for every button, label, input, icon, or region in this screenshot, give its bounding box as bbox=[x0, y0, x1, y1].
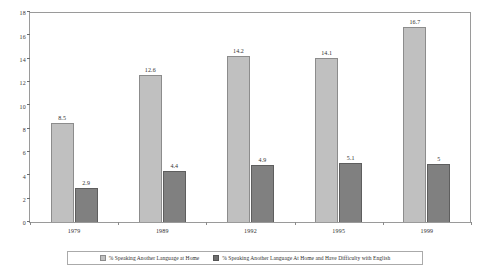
bar-value-label: 8.5 bbox=[51, 115, 74, 121]
y-axis-tick: 10 bbox=[0, 100, 30, 110]
x-axis-label: 1995 bbox=[332, 228, 345, 234]
bar-value-label: 4.4 bbox=[163, 163, 186, 169]
y-axis-tick-label: 12 bbox=[20, 78, 30, 88]
y-axis: 024681012141618 bbox=[0, 12, 30, 223]
x-axis-tick-mark bbox=[471, 222, 472, 225]
bar-series-2 bbox=[163, 171, 186, 222]
y-axis-tick-label: 2 bbox=[23, 195, 30, 205]
bar-value-label: 2.9 bbox=[75, 180, 98, 186]
y-axis-tick: 14 bbox=[0, 54, 30, 64]
legend-swatch-icon bbox=[100, 255, 106, 261]
bar-series-1 bbox=[315, 58, 338, 223]
bar-series-2 bbox=[251, 165, 274, 222]
bar-group: 8.52.9 bbox=[30, 12, 118, 222]
bar-value-label: 4.9 bbox=[251, 157, 274, 163]
bars-layer: 8.52.912.64.414.24.914.15.116.75 bbox=[30, 12, 471, 222]
y-axis-tick: 6 bbox=[0, 147, 30, 157]
bar-value-label: 16.7 bbox=[403, 19, 426, 25]
y-axis-tick-label: 4 bbox=[23, 172, 30, 182]
y-axis-tick-label: 14 bbox=[20, 55, 30, 65]
bar-group: 16.75 bbox=[383, 12, 471, 222]
bar-chart: 024681012141618 8.52.912.64.414.24.914.1… bbox=[0, 0, 482, 272]
y-axis-tick: 0 bbox=[0, 217, 30, 227]
y-axis-tick: 18 bbox=[0, 7, 30, 17]
x-axis-label: 1979 bbox=[68, 228, 81, 234]
x-axis-label: 1999 bbox=[420, 228, 433, 234]
bar-value-label: 14.2 bbox=[227, 48, 250, 54]
bar-series-2 bbox=[427, 164, 450, 222]
legend-label: % Speaking Another Language at Home bbox=[109, 255, 200, 261]
x-axis-tick-mark bbox=[118, 222, 119, 225]
bar-series-1 bbox=[227, 56, 250, 222]
bar-series-2 bbox=[339, 163, 362, 223]
y-axis-tick: 8 bbox=[0, 124, 30, 134]
y-axis-tick-label: 0 bbox=[23, 218, 30, 228]
y-axis-tick-label: 16 bbox=[20, 32, 30, 42]
x-axis-tick-mark bbox=[383, 222, 384, 225]
bar-series-1 bbox=[139, 75, 162, 222]
bar-value-label: 5.1 bbox=[339, 155, 362, 161]
x-axis-label: 1989 bbox=[156, 228, 169, 234]
x-axis-tick-mark bbox=[206, 222, 207, 225]
x-axis-tick-mark bbox=[30, 222, 31, 225]
x-axis-ticks bbox=[30, 222, 471, 226]
bar-series-2 bbox=[75, 188, 98, 222]
legend-label: % Speaking Another Language At Home and … bbox=[222, 255, 390, 261]
x-axis-labels: 19791989199219951999 bbox=[30, 228, 471, 240]
legend-swatch-icon bbox=[213, 255, 219, 261]
y-axis-tick-label: 18 bbox=[20, 8, 30, 18]
bar-group: 14.24.9 bbox=[206, 12, 294, 222]
y-axis-tick-label: 10 bbox=[20, 102, 30, 112]
x-axis-label: 1992 bbox=[244, 228, 257, 234]
legend-item-2: % Speaking Another Language At Home and … bbox=[213, 255, 390, 261]
chart-legend: % Speaking Another Language at Home% Spe… bbox=[67, 251, 423, 265]
bar-group: 12.64.4 bbox=[118, 12, 206, 222]
y-axis-tick: 16 bbox=[0, 30, 30, 40]
y-axis-tick: 4 bbox=[0, 170, 30, 180]
y-axis-tick: 12 bbox=[0, 77, 30, 87]
bar-value-label: 5 bbox=[427, 156, 450, 162]
x-axis-tick-mark bbox=[295, 222, 296, 225]
bar-value-label: 12.6 bbox=[139, 67, 162, 73]
bar-series-1 bbox=[51, 123, 74, 222]
y-axis-tick-label: 8 bbox=[23, 125, 30, 135]
bar-group: 14.15.1 bbox=[295, 12, 383, 222]
bar-value-label: 14.1 bbox=[315, 50, 338, 56]
y-axis-tick: 2 bbox=[0, 194, 30, 204]
y-axis-tick-label: 6 bbox=[23, 148, 30, 158]
legend-item-1: % Speaking Another Language at Home bbox=[100, 255, 200, 261]
bar-series-1 bbox=[403, 27, 426, 222]
